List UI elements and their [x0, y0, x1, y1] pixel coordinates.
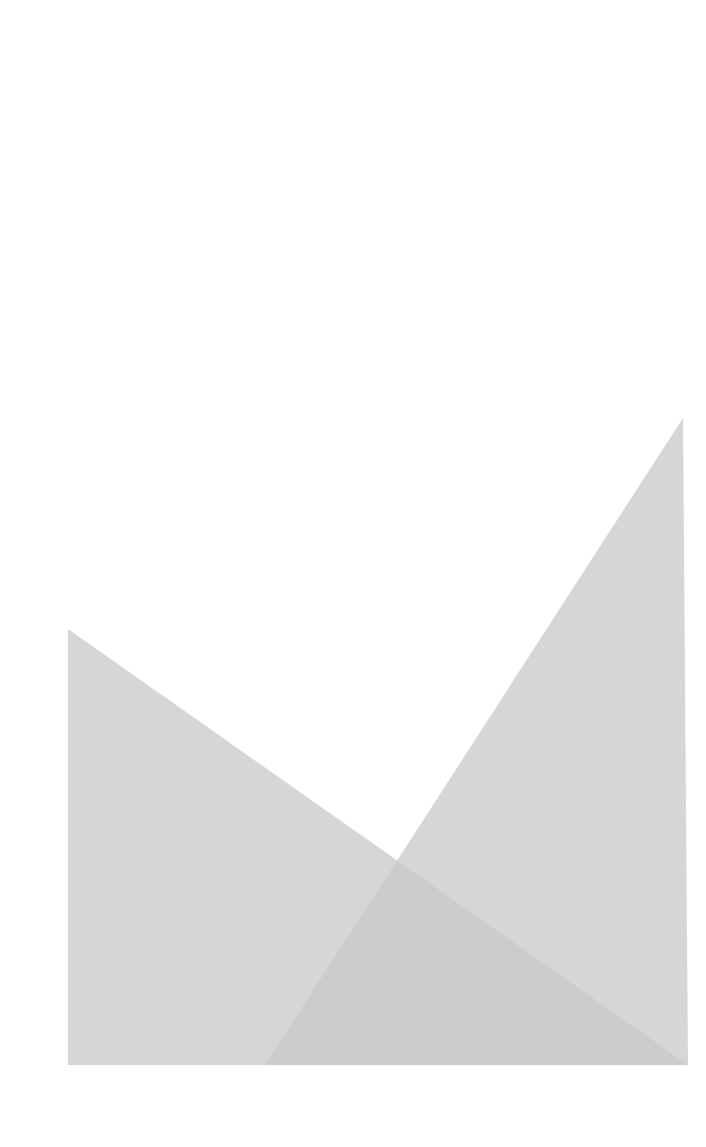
- right-triangle: [265, 418, 688, 1065]
- geometric-artwork: [0, 0, 706, 1147]
